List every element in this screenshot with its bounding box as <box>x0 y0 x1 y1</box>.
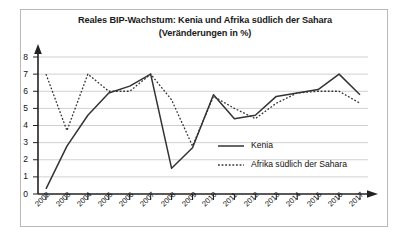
legend-label-1: Kenia <box>251 140 273 150</box>
y-axis-tick-label: 3 <box>14 137 28 147</box>
y-axis-tick-label: 4 <box>14 120 28 130</box>
y-axis-tick-label: 1 <box>14 171 28 181</box>
y-axis-tick-label: 5 <box>14 103 28 113</box>
y-axis-tick-label: 0 <box>14 189 28 199</box>
legend-sample-lines <box>218 146 244 165</box>
y-axis-tick-label: 6 <box>14 86 28 96</box>
y-axis-tick-label: 7 <box>14 69 28 79</box>
y-axis-tick-label: 8 <box>14 52 28 62</box>
y-axis-arrowhead <box>34 44 42 54</box>
legend-label-2: Afrika südlich der Sahara <box>251 159 347 169</box>
x-axis-arrowhead <box>367 190 378 198</box>
y-axis-tick-label: 2 <box>14 154 28 164</box>
